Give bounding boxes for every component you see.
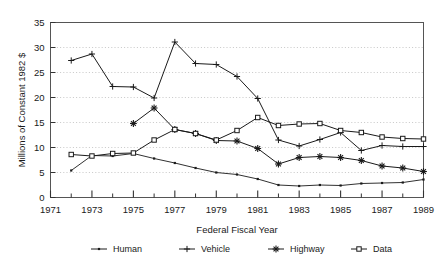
marker-square — [276, 123, 280, 127]
marker-dot — [360, 182, 362, 184]
datapoint-highway-1983 — [296, 154, 303, 161]
xtick-label-1971: 1971 — [40, 204, 61, 215]
datapoint-highway-1976 — [151, 105, 158, 112]
datapoint-human-1981 — [257, 178, 259, 180]
legend-item-human[interactable]: Human — [91, 244, 142, 254]
datapoint-data-1986 — [359, 130, 363, 134]
series-data — [69, 115, 426, 158]
ytick-label-10: 10 — [34, 142, 45, 153]
legend-item-highway[interactable]: Highway — [268, 244, 325, 254]
datapoint-highway-1985 — [337, 154, 344, 161]
legend-label-human: Human — [113, 244, 142, 254]
marker-square — [131, 151, 135, 155]
xtick-label-1987: 1987 — [371, 204, 392, 215]
marker-square — [173, 127, 177, 131]
marker-square — [110, 151, 114, 155]
marker-square — [152, 138, 156, 142]
ytick-label-20: 20 — [34, 92, 45, 103]
marker-square — [357, 247, 361, 251]
marker-dot — [153, 157, 155, 159]
marker-square — [69, 152, 73, 156]
marker-dot — [98, 248, 100, 250]
datapoint-vehicle-1974 — [110, 83, 116, 89]
datapoint-vehicle-1982 — [275, 137, 281, 143]
x-axis-title: Federal Fiscal Year — [196, 224, 277, 235]
datapoint-data-1983 — [297, 122, 301, 126]
datapoint-highway-1986 — [358, 157, 365, 164]
marker-dot — [257, 178, 259, 180]
legend-label-data: Data — [373, 244, 392, 254]
legend-marker-data — [357, 247, 361, 251]
plot-frame — [51, 23, 424, 198]
xtick-label-1985: 1985 — [330, 204, 351, 215]
marker-dot — [381, 182, 383, 184]
datapoint-vehicle-1975 — [130, 84, 136, 90]
datapoint-human-1989 — [422, 178, 424, 180]
marker-square — [380, 135, 384, 139]
legend-label-vehicle: Vehicle — [201, 244, 230, 254]
datapoint-data-1976 — [152, 138, 156, 142]
datapoint-highway-1975 — [130, 120, 137, 127]
y-axis-title: Millions of Constant 1982 $ — [16, 52, 27, 167]
datapoint-highway-1987 — [379, 163, 386, 170]
marker-square — [401, 136, 405, 140]
datapoint-vehicle-1979 — [213, 61, 219, 67]
datapoint-vehicle-1972 — [68, 57, 74, 63]
xtick-label-1975: 1975 — [123, 204, 144, 215]
marker-square — [214, 138, 218, 142]
ytick-label-25: 25 — [34, 67, 45, 78]
datapoint-data-1989 — [421, 137, 425, 141]
legend-item-data[interactable]: Data — [351, 244, 392, 254]
datapoint-vehicle-1988 — [400, 143, 406, 149]
datapoint-data-1977 — [173, 127, 177, 131]
xtick-label-1973: 1973 — [81, 204, 102, 215]
datapoint-human-1977 — [174, 162, 176, 164]
marker-square — [338, 128, 342, 132]
datapoint-human-1986 — [360, 182, 362, 184]
marker-square — [297, 122, 301, 126]
datapoint-human-1972 — [70, 169, 72, 171]
xtick-label-1983: 1983 — [289, 204, 310, 215]
marker-dot — [174, 162, 176, 164]
marker-dot — [319, 184, 321, 186]
legend-marker-human — [98, 248, 100, 250]
datapoint-human-1980 — [236, 173, 238, 175]
xtick-label-1977: 1977 — [164, 204, 185, 215]
datapoint-data-1975 — [131, 151, 135, 155]
legend-marker-vehicle — [184, 246, 190, 252]
datapoint-highway-1989 — [420, 168, 427, 175]
datapoint-data-1982 — [276, 123, 280, 127]
datapoint-vehicle-1984 — [317, 136, 323, 142]
ytick-label-35: 35 — [34, 17, 45, 28]
ytick-label-0: 0 — [39, 192, 44, 203]
legend-marker-highway — [273, 246, 280, 253]
marker-dot — [236, 173, 238, 175]
chart-figure: 0510152025303519711973197519771979198119… — [0, 0, 443, 264]
datapoint-human-1982 — [277, 184, 279, 186]
series-human — [70, 152, 424, 187]
datapoint-data-1981 — [256, 115, 260, 119]
marker-square — [359, 130, 363, 134]
legend-item-vehicle[interactable]: Vehicle — [179, 244, 230, 254]
datapoint-data-1980 — [235, 128, 239, 132]
datapoint-data-1988 — [401, 136, 405, 140]
datapoint-data-1985 — [338, 128, 342, 132]
datapoint-highway-1982 — [275, 161, 282, 168]
datapoint-vehicle-1989 — [420, 143, 426, 149]
ytick-label-15: 15 — [34, 117, 45, 128]
series-line-human — [71, 154, 423, 187]
datapoint-data-1978 — [193, 131, 197, 135]
marker-dot — [402, 181, 404, 183]
marker-dot — [340, 184, 342, 186]
datapoint-data-1987 — [380, 135, 384, 139]
line-chart: 0510152025303519711973197519771979198119… — [0, 0, 443, 264]
datapoint-data-1979 — [214, 138, 218, 142]
datapoint-highway-1981 — [254, 145, 261, 152]
marker-square — [235, 128, 239, 132]
datapoint-human-1985 — [340, 184, 342, 186]
series-line-data — [71, 118, 423, 157]
xtick-label-1979: 1979 — [206, 204, 227, 215]
marker-square — [90, 154, 94, 158]
series-vehicle — [68, 39, 426, 154]
datapoint-human-1978 — [194, 167, 196, 169]
